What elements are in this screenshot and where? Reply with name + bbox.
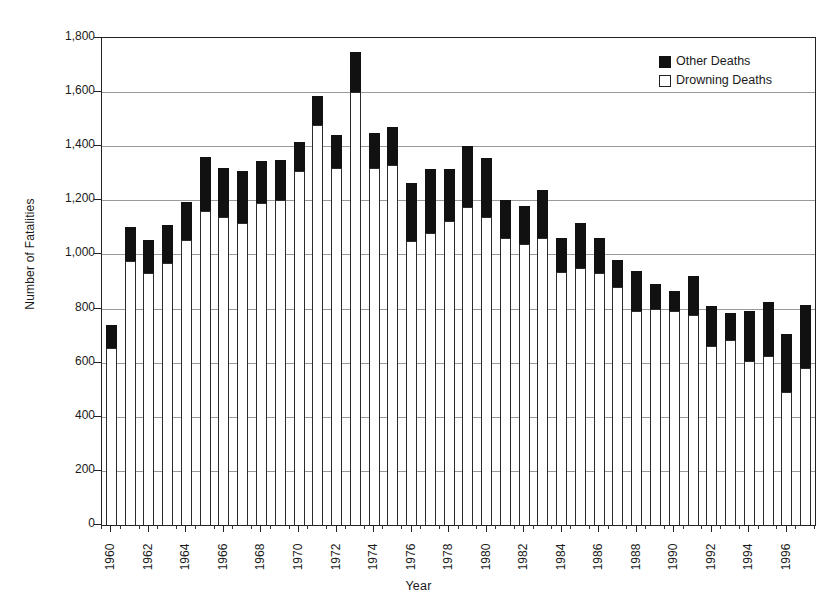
- bar-segment-drowning-deaths: [237, 223, 248, 525]
- bar-segment-other-deaths: [369, 133, 380, 168]
- x-axis-minor-tick: [176, 525, 177, 529]
- bar-1968: [256, 161, 267, 525]
- bar-segment-other-deaths: [387, 127, 398, 165]
- y-axis-tick-label: 200: [39, 462, 95, 476]
- legend-label: Drowning Deaths: [676, 71, 772, 90]
- bar-segment-drowning-deaths: [800, 368, 811, 525]
- x-axis-minor-tick: [345, 525, 346, 529]
- bar-segment-other-deaths: [781, 334, 792, 392]
- legend-item: Other Deaths: [659, 52, 772, 71]
- x-axis-minor-tick: [401, 525, 402, 529]
- x-axis-minor-tick: [382, 525, 383, 529]
- x-axis-tick-label: 1994: [741, 533, 755, 581]
- x-axis-minor-tick: [326, 525, 327, 529]
- bar-segment-other-deaths: [575, 223, 586, 268]
- bar-segment-other-deaths: [612, 260, 623, 287]
- chart-figure: Number of Fatalities 02004006008001,0001…: [0, 0, 837, 612]
- bar-1986: [594, 238, 605, 525]
- y-axis-tick-label: 1,400: [39, 137, 95, 151]
- x-axis-minor-tick: [364, 525, 365, 529]
- bar-segment-drowning-deaths: [575, 268, 586, 525]
- x-axis-minor-tick: [495, 525, 496, 529]
- bar-1966: [218, 168, 229, 525]
- bar-segment-other-deaths: [256, 161, 267, 203]
- y-axis-tick: [94, 524, 101, 525]
- bar-segment-drowning-deaths: [744, 361, 755, 525]
- bar-1978: [444, 169, 455, 525]
- y-axis-tick: [94, 37, 101, 38]
- bar-1983: [537, 190, 548, 525]
- bar-1982: [519, 206, 530, 525]
- bar-segment-drowning-deaths: [218, 217, 229, 525]
- bar-segment-other-deaths: [725, 313, 736, 340]
- x-axis-minor-tick: [120, 525, 121, 529]
- bar-segment-drowning-deaths: [481, 217, 492, 525]
- y-axis-tick-labels: 02004006008001,0001,2001,4001,6001,800: [37, 37, 95, 524]
- y-axis-tick: [94, 362, 101, 363]
- bar-segment-other-deaths: [275, 160, 286, 201]
- x-axis-minor-tick: [232, 525, 233, 529]
- x-axis-minor-tick: [270, 525, 271, 529]
- bar-1994: [744, 311, 755, 525]
- bar-segment-other-deaths: [294, 142, 305, 170]
- bar-segment-other-deaths: [406, 183, 417, 241]
- bar-segment-other-deaths: [650, 284, 661, 308]
- bar-segment-drowning-deaths: [200, 211, 211, 525]
- bar-1981: [500, 200, 511, 525]
- plot-area: [101, 37, 816, 526]
- bar-segment-drowning-deaths: [763, 356, 774, 525]
- x-axis-tick-label: 1962: [141, 533, 155, 581]
- bar-1964: [181, 202, 192, 525]
- bar-segment-drowning-deaths: [688, 315, 699, 525]
- y-axis-tick-label: 1,200: [39, 191, 95, 205]
- x-axis-minor-tick: [476, 525, 477, 529]
- bar-segment-drowning-deaths: [462, 207, 473, 525]
- bar-1979: [462, 146, 473, 525]
- bar-segment-other-deaths: [669, 291, 680, 311]
- x-axis-minor-tick: [776, 525, 777, 529]
- x-axis-minor-tick: [683, 525, 684, 529]
- bar-segment-other-deaths: [143, 240, 154, 274]
- bar-segment-drowning-deaths: [331, 168, 342, 525]
- x-axis-tick-label: 1976: [404, 533, 418, 581]
- bar-segment-other-deaths: [462, 146, 473, 207]
- bar-segment-drowning-deaths: [387, 165, 398, 525]
- y-axis-tick: [94, 145, 101, 146]
- y-axis-tick: [94, 253, 101, 254]
- bar-1995: [763, 302, 774, 525]
- x-axis-tick-label: 1960: [103, 533, 117, 581]
- bar-segment-drowning-deaths: [706, 346, 717, 525]
- bar-1997: [800, 305, 811, 526]
- y-axis-tick: [94, 470, 101, 471]
- bar-series-container: [102, 38, 815, 525]
- bar-segment-drowning-deaths: [725, 340, 736, 525]
- legend-label: Other Deaths: [676, 52, 750, 71]
- bar-segment-drowning-deaths: [143, 273, 154, 525]
- bar-segment-drowning-deaths: [125, 261, 136, 525]
- x-axis-minor-tick: [645, 525, 646, 529]
- bar-segment-drowning-deaths: [256, 203, 267, 525]
- x-axis-minor-tick: [570, 525, 571, 529]
- bar-segment-other-deaths: [162, 225, 173, 263]
- legend-item: Drowning Deaths: [659, 71, 772, 90]
- bar-segment-other-deaths: [331, 135, 342, 167]
- x-axis-tick-label: 1986: [591, 533, 605, 581]
- x-axis-minor-tick: [795, 525, 796, 529]
- bar-1961: [125, 227, 136, 525]
- x-axis-minor-tick: [157, 525, 158, 529]
- bar-segment-other-deaths: [106, 325, 117, 348]
- y-axis-tick-label: 0: [39, 516, 95, 530]
- x-axis-minor-tick: [458, 525, 459, 529]
- legend-swatch-icon: [659, 75, 671, 87]
- x-axis-tick-labels: 1960196219641966196819701972197419761978…: [101, 530, 814, 576]
- bar-segment-drowning-deaths: [294, 171, 305, 525]
- x-axis-tick-label: 1968: [253, 533, 267, 581]
- bar-1972: [331, 135, 342, 525]
- bar-segment-drowning-deaths: [106, 348, 117, 525]
- x-axis-tick-label: 1982: [516, 533, 530, 581]
- bar-segment-other-deaths: [744, 311, 755, 361]
- x-axis-minor-tick: [720, 525, 721, 529]
- bar-1990: [669, 291, 680, 525]
- bar-segment-other-deaths: [631, 271, 642, 312]
- bar-1987: [612, 260, 623, 525]
